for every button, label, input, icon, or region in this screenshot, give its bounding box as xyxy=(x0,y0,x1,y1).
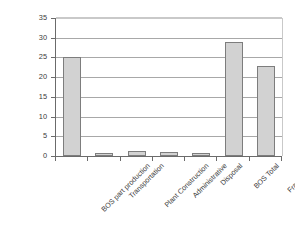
plot-right-edge xyxy=(282,18,283,156)
y-tick-label: 5 xyxy=(21,132,47,139)
bar-slot xyxy=(56,18,88,156)
y-tick-label: 20 xyxy=(21,73,47,80)
x-tick-label: Frame Total xyxy=(286,162,295,194)
y-tick-label: 0 xyxy=(21,152,47,159)
bar-slot xyxy=(153,18,185,156)
ghg-emissions-bar-chart: GHG emissions (kg CO2 eq./ m2) 051015202… xyxy=(0,0,295,232)
y-tick-label: 30 xyxy=(21,34,47,41)
bar-slot xyxy=(250,18,282,156)
bar[interactable] xyxy=(257,66,275,156)
x-axis-labels: BOS part productionTransportationPlant C… xyxy=(55,156,281,232)
bar-slot xyxy=(217,18,249,156)
bar-slot xyxy=(121,18,153,156)
y-tick-label: 15 xyxy=(21,93,47,100)
bar-slot xyxy=(88,18,120,156)
plot-area xyxy=(55,18,282,157)
bars-layer xyxy=(56,18,282,156)
x-tick-mark xyxy=(281,157,282,161)
y-tick-label: 25 xyxy=(21,53,47,60)
y-tick-label: 35 xyxy=(21,14,47,21)
x-tick-label: BOS Total xyxy=(252,162,280,190)
bar-slot xyxy=(185,18,217,156)
y-tick-label: 10 xyxy=(21,113,47,120)
bar[interactable] xyxy=(63,57,81,156)
bar[interactable] xyxy=(225,42,243,156)
